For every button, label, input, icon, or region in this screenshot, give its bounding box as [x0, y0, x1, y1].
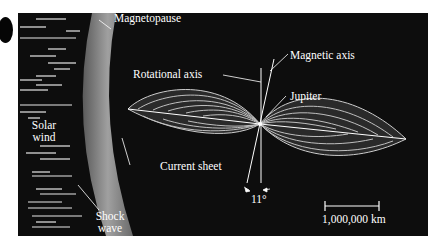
label-current-sheet: Current sheet [160, 160, 222, 172]
label-shock-wave-line1: Shock [92, 210, 128, 222]
label-magnetopause: Magnetopause [114, 13, 181, 24]
label-jupiter: Jupiter [290, 90, 321, 102]
magnetosphere-diagram: Magnetopause Rotational axis Magnetic ax… [18, 13, 428, 236]
label-scale-bar: 1,000,000 km [322, 213, 386, 225]
bullet-dot [0, 17, 13, 43]
label-solar-wind-line1: Solar [26, 119, 62, 131]
label-shock-wave: Shock wave [92, 210, 128, 234]
label-rotational-axis: Rotational axis [133, 68, 202, 80]
label-solar-wind: Solar wind [26, 119, 62, 143]
label-angle: 11° [251, 193, 267, 205]
label-solar-wind-line2: wind [26, 131, 62, 143]
magnetopause-band [83, 13, 133, 236]
scale-bar [325, 201, 379, 211]
label-magnetic-axis: Magnetic axis [290, 49, 355, 61]
diagram-graphics [18, 13, 428, 236]
label-shock-wave-line2: wave [92, 222, 128, 234]
current-sheet-lobes [128, 90, 406, 156]
jupiter-dot [258, 122, 262, 126]
